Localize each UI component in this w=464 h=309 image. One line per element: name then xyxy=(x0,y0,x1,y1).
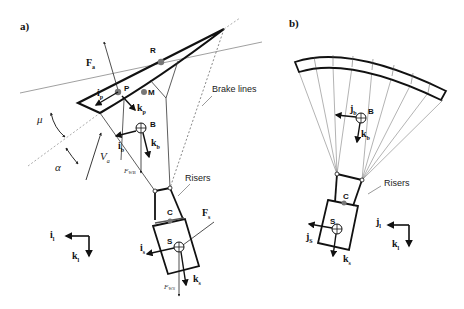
point-P-label: P xyxy=(124,84,130,93)
canopy-b xyxy=(295,57,446,100)
is-label: is xyxy=(140,242,146,255)
alpha-label: α xyxy=(55,161,61,173)
jS-label: jS xyxy=(305,231,313,244)
kb-label: kb xyxy=(151,137,161,150)
brake-lines-label: Brake lines xyxy=(212,84,257,94)
ks-label: ks xyxy=(193,273,202,286)
Fa-label: Fa xyxy=(86,57,95,70)
kb-b-label: kb xyxy=(361,128,371,141)
risers-label-a: Risers xyxy=(185,173,211,183)
point-B-label: B xyxy=(150,120,156,129)
FWS-label: FWS xyxy=(163,283,175,291)
point-B xyxy=(136,123,146,133)
ks-b-vector xyxy=(333,234,336,256)
Fs-label: Fs xyxy=(202,207,211,220)
point-R xyxy=(158,59,164,65)
Va-vector xyxy=(86,133,101,180)
kb-vector xyxy=(143,133,149,157)
ks-vector xyxy=(181,252,186,285)
kb-b-vector xyxy=(357,123,360,142)
risers-label-b: Risers xyxy=(384,178,410,188)
risers-b xyxy=(335,172,364,206)
wing-profile xyxy=(78,29,224,113)
point-B-b xyxy=(356,113,366,123)
paraglider-diagram: a) Brake lines Fa R P ip xyxy=(0,0,464,309)
point-S-b-label: S xyxy=(330,217,336,226)
kl-label-a: kl xyxy=(72,250,80,263)
point-S xyxy=(174,242,184,252)
panel-b-label: b) xyxy=(289,17,299,30)
risers-b-leader xyxy=(368,186,381,194)
point-C-label: C xyxy=(167,208,173,217)
ks-b-label: ks xyxy=(343,253,352,266)
point-M-label: M xyxy=(148,88,155,97)
il-label: il xyxy=(50,229,55,242)
FWB-label: FWB xyxy=(123,167,136,175)
panel-b: b) B xyxy=(289,17,446,266)
risers-leader xyxy=(178,184,190,196)
mu-angle-arc xyxy=(51,113,65,137)
point-S-label: S xyxy=(167,237,173,246)
point-R-label: R xyxy=(150,46,156,55)
point-M xyxy=(141,89,147,95)
ib-label: ib xyxy=(118,140,125,153)
jb-label: jb xyxy=(349,103,357,116)
point-C xyxy=(168,219,173,224)
alpha-angle-arc xyxy=(66,148,78,164)
jl-label: jl xyxy=(375,216,381,229)
point-C-b-label: C xyxy=(343,192,349,201)
Fa-vector xyxy=(104,42,118,90)
ib-vector xyxy=(116,131,136,136)
kp-label: kp xyxy=(137,102,147,115)
brake-lines-leader xyxy=(202,96,212,106)
Va-label: Va xyxy=(100,150,110,164)
point-C-b xyxy=(342,201,347,206)
mu-label: μ xyxy=(36,113,43,125)
kl-label-b: kl xyxy=(392,238,400,251)
ip-label: ip xyxy=(97,87,104,100)
panel-a-label: a) xyxy=(20,20,30,33)
point-B-b-label: B xyxy=(368,107,374,116)
jS-vector xyxy=(309,224,332,228)
panel-a: a) Brake lines Fa R P ip xyxy=(20,18,262,296)
tip-dashed-line xyxy=(224,18,240,29)
